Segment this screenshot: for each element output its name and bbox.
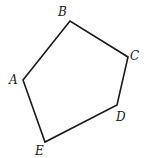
vertex-label-d: D: [115, 110, 126, 124]
vertex-label-a: A: [8, 73, 18, 87]
pentagon-shape: [23, 21, 128, 142]
vertex-label-b: B: [57, 5, 67, 19]
vertex-label-c: C: [130, 49, 139, 63]
vertex-label-e: E: [34, 144, 44, 158]
pentagon-diagram: A B C D E: [0, 0, 147, 158]
